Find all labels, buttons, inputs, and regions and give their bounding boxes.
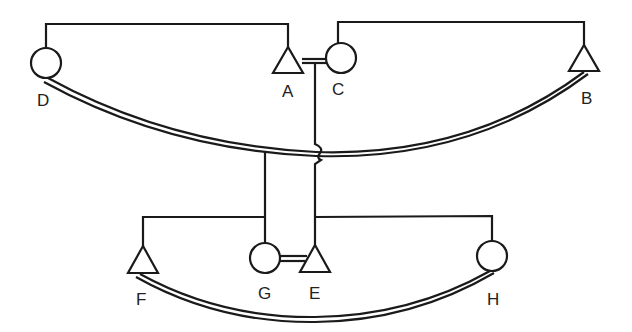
label-f: F: [136, 291, 146, 308]
label-c: C: [332, 81, 344, 98]
node-f: [128, 246, 158, 273]
diagram-canvas: D A C B F G E H: [0, 0, 632, 332]
edge-f-g: [143, 217, 265, 246]
label-h: H: [487, 291, 499, 308]
label-b: B: [581, 90, 592, 107]
network-diagram: [0, 0, 632, 332]
label-a: A: [282, 83, 293, 100]
node-b: [569, 45, 599, 71]
edge-e-h: [315, 216, 492, 241]
node-a: [273, 47, 303, 73]
node-e: [300, 245, 330, 272]
node-h: [477, 241, 507, 271]
node-g: [250, 243, 280, 273]
label-d: D: [37, 92, 49, 109]
label-e: E: [309, 285, 320, 302]
node-c: [326, 43, 356, 73]
edge-c-b: [338, 22, 584, 45]
edge-d-a: [46, 24, 288, 48]
label-g: G: [258, 285, 271, 302]
node-d: [31, 48, 61, 78]
